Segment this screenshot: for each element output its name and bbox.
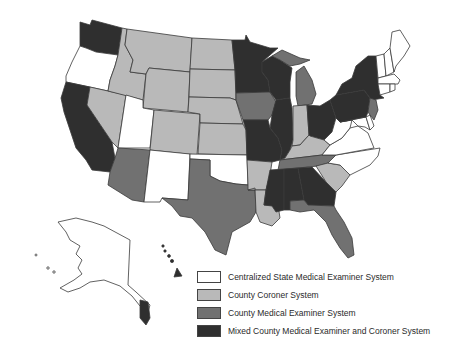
legend-swatch	[197, 289, 221, 301]
aleutian-island	[47, 267, 49, 269]
state-WY	[143, 68, 190, 112]
legend-label: Mixed County Medical Examiner and Corone…	[228, 326, 430, 336]
state-CO	[150, 110, 200, 155]
legend-swatch	[197, 307, 221, 319]
state-AK-panhandle	[140, 300, 150, 325]
state-MT	[125, 29, 192, 74]
state-ND	[190, 38, 235, 70]
legend-swatch	[197, 271, 221, 283]
aleutian-island	[53, 271, 55, 273]
legend-item-centralized: Centralized State Medical Examiner Syste…	[197, 270, 430, 284]
aleutian-island	[35, 254, 37, 256]
legend-label: County Medical Examiner System	[228, 308, 356, 318]
state-KS	[198, 123, 247, 155]
map-legend: Centralized State Medical Examiner Syste…	[197, 270, 430, 342]
legend-label: County Coroner System	[228, 290, 319, 300]
state-MI	[296, 66, 316, 106]
state-AK	[58, 218, 150, 312]
legend-label: Centralized State Medical Examiner Syste…	[228, 272, 394, 282]
legend-item-county-me: County Medical Examiner System	[197, 306, 430, 320]
state-FL	[290, 200, 354, 258]
legend-item-mixed: Mixed County Medical Examiner and Corone…	[197, 324, 430, 338]
state-NM	[144, 150, 190, 202]
state-HI	[174, 268, 182, 277]
state-HI-island	[168, 255, 171, 258]
legend-item-coroner: County Coroner System	[197, 288, 430, 302]
state-HI-island	[170, 259, 173, 262]
legend-swatch	[197, 325, 221, 337]
state-IA	[236, 92, 276, 120]
state-CT	[378, 84, 390, 95]
state-SD	[189, 69, 236, 100]
state-HI-island	[162, 245, 164, 247]
state-HI-island	[164, 250, 166, 252]
state-ME	[390, 30, 410, 72]
state-RI	[390, 84, 395, 92]
